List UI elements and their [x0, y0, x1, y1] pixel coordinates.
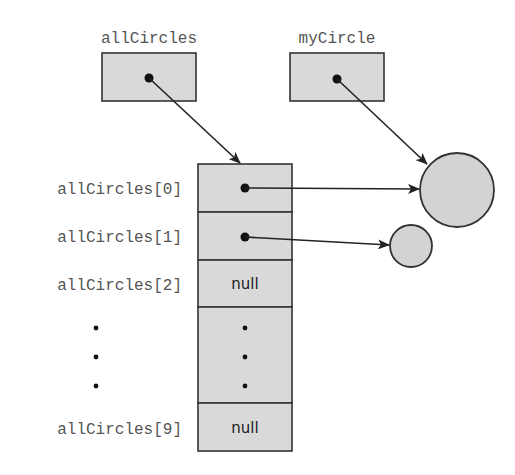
ellipsis-dot-icon	[94, 326, 99, 331]
object-reference-diagram: allCircles myCircle null null allCircles…	[0, 0, 515, 475]
ellipsis-dot-icon	[243, 355, 248, 360]
ellipsis-dot-icon	[94, 384, 99, 389]
index-label-9: allCircles[9]	[57, 421, 182, 439]
variable-myCircle: myCircle	[290, 30, 384, 101]
circle-object-small	[390, 225, 432, 267]
index-label-2: allCircles[2]	[57, 277, 182, 295]
index-label-1: allCircles[1]	[57, 229, 182, 247]
variable-allCircles: allCircles	[101, 30, 197, 101]
ellipsis-dot-icon	[243, 384, 248, 389]
array-allCircles: null null	[198, 164, 292, 451]
null-value-9: null	[231, 419, 258, 437]
variable-label-myCircle: myCircle	[299, 30, 376, 48]
null-value-2: null	[231, 275, 258, 293]
pointer-arrow-row0-to-circle	[245, 188, 419, 189]
index-label-0: allCircles[0]	[57, 181, 182, 199]
variable-label-allCircles: allCircles	[101, 30, 197, 48]
array-index-labels: allCircles[0] allCircles[1] allCircles[2…	[57, 181, 182, 439]
ellipsis-dot-icon	[243, 326, 248, 331]
circle-object-large	[420, 153, 494, 227]
ellipsis-dot-icon	[94, 355, 99, 360]
